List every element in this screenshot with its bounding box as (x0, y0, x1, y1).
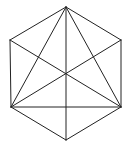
hexagon-edge-upper-left-top (10, 7, 66, 40)
diagram-canvas (0, 0, 132, 147)
hexagon-edge-lower-right-bottom (66, 107, 121, 140)
hexagon-diagram (0, 0, 132, 147)
hexagon-edge-lower-left-upper-left (10, 40, 11, 107)
hexagon-edge-top-upper-right (66, 7, 121, 40)
hexagon-edge-bottom-lower-left (11, 107, 66, 140)
